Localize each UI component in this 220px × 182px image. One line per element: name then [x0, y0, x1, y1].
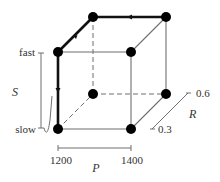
s-axis-low-label: slow	[15, 123, 36, 135]
edge-bottom-left-diagonal-hidden	[58, 94, 93, 129]
vertex-back-bottom-right	[161, 89, 171, 99]
arrow-icon	[127, 15, 132, 20]
vertex-back-top-right	[161, 12, 171, 22]
edge-top-right-diagonal	[131, 17, 166, 52]
squiggle-icon	[44, 96, 52, 132]
cube-edges-solid	[58, 17, 166, 129]
vertex-front-top-right	[126, 47, 136, 57]
s-axis-high-label: fast	[19, 46, 35, 58]
cube-diagram: fast S slow 1200 P 1400 0.6 R 0.3	[0, 0, 220, 182]
p-axis-low-label: 1200	[50, 154, 73, 166]
s-axis	[38, 53, 52, 132]
r-axis-name: R	[188, 107, 197, 121]
path-arrows	[56, 15, 133, 94]
p-axis-name: P	[91, 161, 100, 175]
p-axis-high-label: 1400	[121, 154, 144, 166]
path-segment-2	[58, 17, 93, 52]
p-axis	[58, 145, 131, 151]
arrow-icon	[56, 88, 61, 93]
vertex-back-top-left	[88, 12, 98, 22]
vertex-front-bottom-left	[53, 124, 63, 134]
vertex-front-bottom-right	[126, 124, 136, 134]
s-axis-name: S	[12, 85, 18, 99]
r-axis-high-label: 0.6	[196, 87, 210, 99]
r-axis-low-label: 0.3	[158, 123, 172, 135]
vertex-front-top-left	[53, 47, 63, 57]
vertex-back-bottom-left	[88, 89, 98, 99]
